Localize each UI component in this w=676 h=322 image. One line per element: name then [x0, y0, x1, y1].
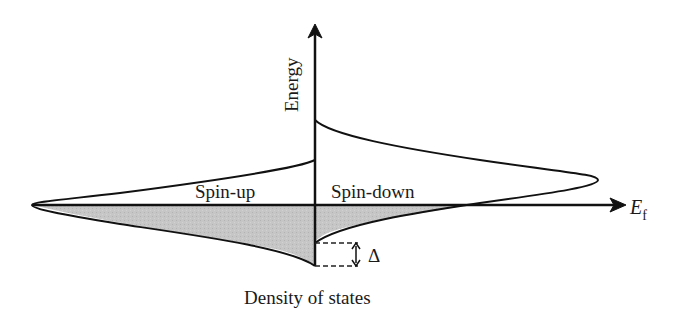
- density-of-states-label: Density of states: [244, 287, 371, 308]
- spin-down-label: Spin-down: [331, 181, 415, 202]
- energy-axis-label: Energy: [281, 57, 302, 112]
- dos-diagram: Energy Spin-up Spin-down Ef Δ Density of…: [0, 0, 676, 322]
- delta-label: Δ: [368, 245, 380, 266]
- spin-up-occupied-fill: [34, 205, 315, 266]
- spin-up-label: Spin-up: [195, 181, 255, 202]
- fermi-level-label-sub: f: [642, 208, 647, 223]
- spin-down-occupied-fill: [315, 205, 468, 243]
- fermi-level-label: Ef: [629, 196, 647, 223]
- fermi-level-label-main: E: [629, 196, 642, 218]
